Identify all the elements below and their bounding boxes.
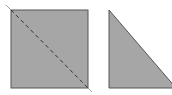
diagram-canvas xyxy=(0,0,172,95)
diagonal-solid-ext-bottom xyxy=(88,88,92,92)
diagonal-solid-ext-top xyxy=(6,5,11,10)
triangle-shape xyxy=(109,10,172,88)
